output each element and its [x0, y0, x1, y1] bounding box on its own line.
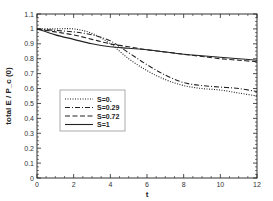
legend-entry: S=0.: [97, 96, 112, 103]
legend-entry: S=0.72: [97, 113, 119, 120]
energy-chart: total E / P_c (0) t 02468101200.10.20.30…: [0, 0, 273, 201]
legend: S=0.S=0.29S=0.72S=1: [60, 90, 125, 131]
legend-entry: S=0.29: [97, 104, 119, 111]
svg-text:total E / P_c (0): total E / P_c (0): [4, 67, 13, 125]
data-series: [37, 29, 257, 96]
y-tick-label: 0.5: [24, 100, 34, 107]
y-tick-label: 0.4: [24, 115, 34, 122]
series-line: [37, 29, 257, 60]
y-axis-label: total E / P_c (0): [4, 67, 13, 125]
y-tick-label: 0.2: [24, 145, 34, 152]
x-tick-label: 0: [35, 181, 39, 188]
y-tick-label: 0: [30, 175, 34, 182]
y-tick-label: 0.7: [24, 70, 34, 77]
y-tick-label: 1: [30, 25, 34, 32]
y-tick-label: 0.3: [24, 130, 34, 137]
x-tick-label: 12: [253, 181, 261, 188]
y-tick-label: 0.9: [24, 40, 34, 47]
x-axis-label: t: [146, 190, 149, 199]
x-tick-label: 8: [182, 181, 186, 188]
y-tick-label: 0.6: [24, 85, 34, 92]
y-tick-label: 0.8: [24, 55, 34, 62]
x-tick-label: 6: [145, 181, 149, 188]
series-line: [37, 29, 257, 62]
y-tick-label: 0.1: [24, 160, 34, 167]
legend-entry: S=1: [97, 121, 110, 128]
x-tick-label: 4: [108, 181, 112, 188]
x-tick-label: 10: [216, 181, 224, 188]
x-tick-label: 2: [72, 181, 76, 188]
y-tick-label: 1.1: [24, 11, 34, 18]
